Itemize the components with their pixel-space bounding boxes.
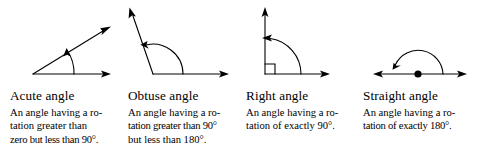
panel-right-angle: Right angle An angle having a ro- tation… (240, 0, 358, 162)
angle-types-figure: Acute angle An angle having a ro- tation… (0, 0, 479, 162)
straight-angle-diagram (357, 2, 475, 86)
straight-vertex-dot (414, 70, 421, 77)
straight-arc-arrowhead (393, 63, 401, 70)
panel-heading-right: Right angle (246, 88, 358, 103)
description-line: zero but less than 90°. (10, 133, 118, 146)
panel-description-straight: An angle having a ro- tation of exactly … (363, 106, 471, 133)
panel-heading-straight: Straight angle (363, 88, 475, 103)
panel-straight-angle: Straight angle An angle having a ro- tat… (357, 0, 475, 162)
description-line: tation of exactly 90°. (246, 119, 354, 132)
panel-description-right: An angle having a ro- tation of exactly … (246, 106, 354, 133)
acute-angle-diagram (4, 2, 122, 86)
description-line: but less than 180°. (128, 133, 236, 146)
panel-description-acute: An angle having a ro- tation greater tha… (10, 106, 118, 146)
right-angle-diagram (240, 2, 358, 86)
straight-rotation-arc (396, 50, 444, 74)
acute-arc-arrowhead (63, 48, 71, 57)
acute-slanted-arrowhead (100, 27, 111, 36)
right-angle-square-marker (265, 64, 275, 74)
obtuse-angle-diagram (122, 2, 240, 86)
obtuse-rotation-arc (144, 44, 184, 74)
description-line: tation of exactly 180°. (363, 119, 471, 132)
description-line: An angle having a ro- (363, 106, 471, 119)
description-line: tation greater than (10, 119, 118, 132)
panel-heading-acute: Acute angle (10, 88, 122, 103)
panel-heading-obtuse: Obtuse angle (128, 88, 240, 103)
obtuse-slanted-arrowhead (129, 8, 136, 19)
description-line: tation greater than 90° (128, 119, 236, 132)
description-line: An angle having a ro- (128, 106, 236, 119)
panel-acute-angle: Acute angle An angle having a ro- tation… (4, 0, 122, 162)
description-line: An angle having a ro- (246, 106, 354, 119)
panel-description-obtuse: An angle having a ro- tation greater tha… (128, 106, 236, 146)
description-line: An angle having a ro- (10, 106, 118, 119)
panel-obtuse-angle: Obtuse angle An angle having a ro- tatio… (122, 0, 240, 162)
